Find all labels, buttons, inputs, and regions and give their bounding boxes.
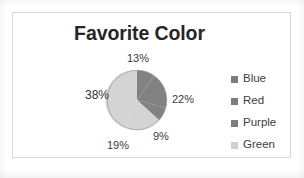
- legend-item-red[interactable]: Red: [231, 90, 303, 112]
- pie-data-label-3: 19%: [107, 140, 129, 151]
- legend-item-label: Purple: [243, 117, 276, 129]
- plot-area: 13% 22% 9% 19% 38%: [31, 51, 213, 157]
- pie-data-label-4: 38%: [85, 89, 109, 101]
- pie-svg: [106, 69, 168, 131]
- legend-item-green[interactable]: Green: [231, 134, 303, 156]
- pie-data-label-0: 13%: [127, 53, 149, 64]
- legend-item-purple[interactable]: Purple: [231, 112, 303, 134]
- pie-chart: [106, 69, 168, 131]
- legend-item-label: Green: [243, 139, 275, 151]
- legend-swatch-icon: [231, 98, 238, 105]
- legend-swatch-icon: [231, 76, 238, 83]
- legend-item-label: Blue: [243, 73, 266, 85]
- legend-item-blue[interactable]: Blue: [231, 68, 303, 90]
- chart-screenshot: Favorite Color 13% 22% 9% 1: [0, 0, 304, 178]
- pie-data-label-1: 22%: [172, 94, 194, 105]
- chart-legend: Blue Red Purple Green: [231, 68, 303, 156]
- pie-data-label-2: 9%: [153, 131, 169, 142]
- chart-title: Favorite Color: [13, 22, 290, 45]
- legend-item-label: Red: [243, 95, 264, 107]
- chart-frame: Favorite Color 13% 22% 9% 1: [12, 12, 291, 158]
- legend-swatch-icon: [231, 120, 238, 127]
- legend-swatch-icon: [231, 142, 238, 149]
